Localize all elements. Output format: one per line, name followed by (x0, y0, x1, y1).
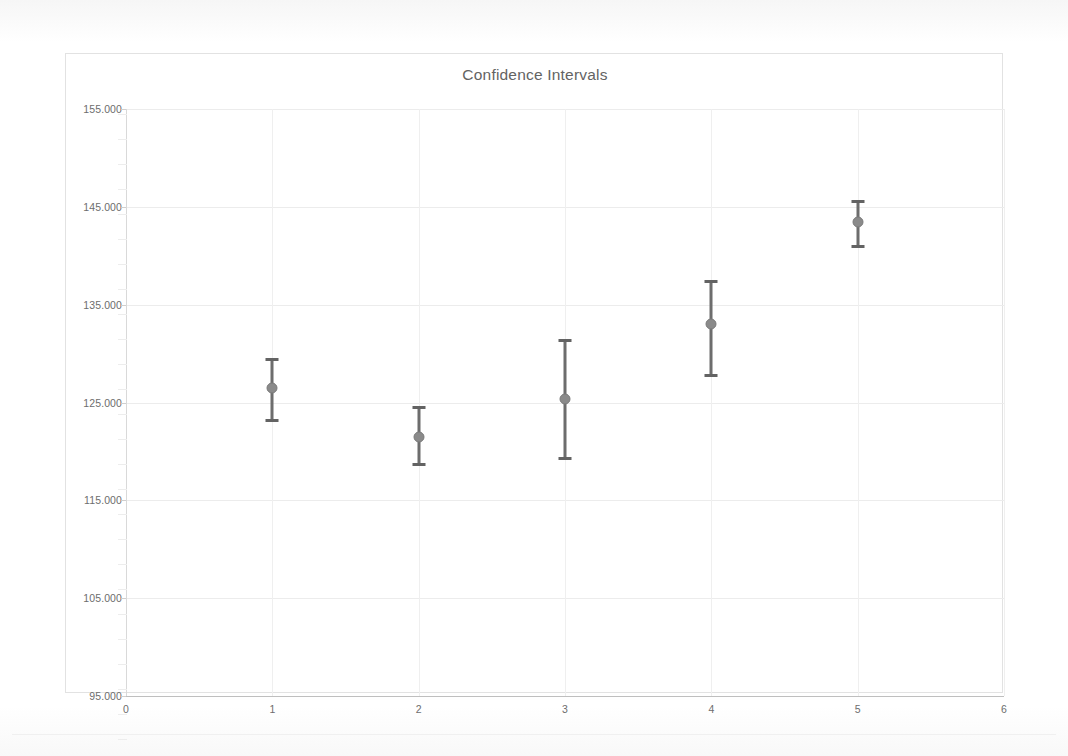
data-point-marker (706, 319, 717, 330)
gridline-vertical (858, 109, 859, 696)
error-bar-cap-lower (412, 463, 425, 466)
page-bottom-rule (12, 734, 1056, 735)
outer-tick-mark (118, 289, 127, 290)
outer-tick-mark (118, 214, 127, 215)
x-axis-line (126, 696, 1004, 697)
error-bar-cap-lower (559, 457, 572, 460)
outer-tick-mark (118, 514, 127, 515)
x-axis-tick-label: 4 (708, 703, 714, 715)
outer-tick-mark (118, 689, 127, 690)
outer-tick-mark (118, 639, 127, 640)
outer-tick-mark (118, 714, 127, 715)
y-axis-tick-label: 145.000 (83, 201, 122, 213)
outer-tick-mark (118, 489, 127, 490)
outer-tick-mark (118, 539, 127, 540)
outer-tick-mark (118, 264, 127, 265)
x-axis-tick-label: 5 (855, 703, 861, 715)
outer-tick-mark (118, 564, 127, 565)
outer-tick-mark (118, 664, 127, 665)
error-bar-cap-upper (266, 358, 279, 361)
outer-tick-mark (118, 464, 127, 465)
outer-tick-mark (118, 339, 127, 340)
data-point-marker (560, 393, 571, 404)
gridline-vertical (1004, 109, 1005, 696)
gridline-vertical (419, 109, 420, 696)
error-bar-cap-upper (705, 280, 718, 283)
y-axis-tick-mark (121, 109, 126, 110)
data-point-marker (267, 382, 278, 393)
outer-tick-mark (118, 364, 127, 365)
error-bar-cap-upper (559, 339, 572, 342)
outer-tick-mark (118, 414, 127, 415)
outer-tick-mark (118, 164, 127, 165)
y-axis-tick-label: 135.000 (83, 299, 122, 311)
outer-tick-mark (118, 239, 127, 240)
outer-tick-mark (118, 614, 127, 615)
outer-tick-mark (118, 114, 127, 115)
error-bar-cap-lower (705, 374, 718, 377)
x-axis-tick-label: 6 (1001, 703, 1007, 715)
gridline-vertical (711, 109, 712, 696)
x-axis-tick-label: 3 (562, 703, 568, 715)
plot-area: 95.000105.000115.000125.000135.000145.00… (126, 109, 1004, 696)
y-axis-tick-label: 105.000 (83, 592, 122, 604)
x-axis-tick-label: 2 (416, 703, 422, 715)
x-axis-tick-label: 1 (269, 703, 275, 715)
y-axis-tick-label: 125.000 (83, 397, 122, 409)
outer-tick-mark (118, 189, 127, 190)
error-bar-cap-lower (851, 245, 864, 248)
data-point-marker (852, 216, 863, 227)
error-bar-cap-upper (851, 200, 864, 203)
chart-title: Confidence Intervals (66, 66, 1004, 84)
error-bar-cap-lower (266, 419, 279, 422)
outer-tick-mark (118, 389, 127, 390)
chart-figure: Confidence Intervals 95.000105.000115.00… (65, 53, 1003, 693)
outer-tick-mark (118, 739, 127, 740)
data-point-marker (413, 431, 424, 442)
y-axis-tick-label: 155.000 (83, 103, 122, 115)
outer-tick-marks (118, 114, 128, 754)
error-bar-cap-upper (412, 406, 425, 409)
outer-tick-mark (118, 439, 127, 440)
outer-tick-mark (118, 589, 127, 590)
outer-tick-mark (118, 314, 127, 315)
y-axis-tick-label: 115.000 (84, 494, 122, 506)
outer-tick-mark (118, 139, 127, 140)
